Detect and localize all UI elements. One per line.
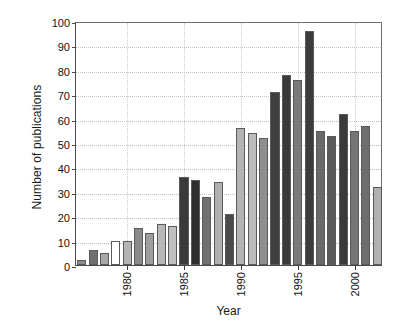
bar [191,180,200,265]
x-axis-tick [241,265,242,270]
bar [123,241,132,265]
y-axis-tick-label: 90 [58,41,70,53]
y-axis-tick-label: 40 [58,163,70,175]
bar [282,75,291,265]
y-axis-tick [72,169,76,170]
y-gridline [76,47,381,48]
y-axis-tick [72,96,76,97]
bar [134,228,143,265]
bar [248,133,257,265]
bar [236,128,245,265]
y-axis-tick-label: 10 [58,237,70,249]
figure: Number of publications 01020304050607080… [0,0,400,328]
y-axis-tick-label: 100 [52,17,70,29]
y-axis-tick-label: 60 [58,115,70,127]
y-gridline [76,96,381,97]
bar [270,92,279,265]
x-axis-tick [298,265,299,270]
bar [145,233,154,265]
bar [157,224,166,265]
y-axis-tick [72,218,76,219]
y-axis-tick [72,243,76,244]
bar [111,241,120,265]
bar [214,182,223,265]
y-axis-tick-label: 0 [64,261,70,273]
plot-area: 0102030405060708090100198019851990199520… [75,22,382,266]
x-axis-tick-label: 2000 [349,272,361,296]
bar [225,214,234,265]
bar [316,131,325,265]
bar [100,253,109,265]
y-axis-tick [72,267,76,268]
bar [179,177,188,265]
y-axis-tick [72,47,76,48]
bar [305,31,314,265]
bar [339,114,348,265]
bar [259,138,268,265]
bar [77,260,86,265]
bar [361,126,370,265]
x-axis-tick [355,265,356,270]
x-gridline [127,23,128,265]
y-gridline [76,121,381,122]
x-axis-tick [127,265,128,270]
y-axis-tick [72,194,76,195]
bar [373,187,382,265]
x-axis-tick-label: 1990 [235,272,247,296]
y-axis-tick-label: 50 [58,139,70,151]
y-axis-tick-label: 70 [58,90,70,102]
y-axis-tick-label: 30 [58,188,70,200]
bar [89,250,98,265]
y-axis-tick [72,145,76,146]
bar [168,226,177,265]
bar [350,131,359,265]
y-axis-tick [72,72,76,73]
y-axis-tick-label: 80 [58,66,70,78]
x-axis-tick-label: 1995 [292,272,304,296]
y-axis-tick [72,23,76,24]
x-axis-tick [184,265,185,270]
y-axis-tick-label: 20 [58,212,70,224]
y-axis-title: Number of publications [30,47,44,247]
x-axis-tick-label: 1985 [178,272,190,296]
y-gridline [76,72,381,73]
y-axis-tick [72,121,76,122]
bar [327,136,336,265]
bar [202,197,211,265]
bar [293,80,302,265]
x-axis-tick-label: 1980 [121,272,133,296]
x-axis-title: Year [75,304,382,318]
